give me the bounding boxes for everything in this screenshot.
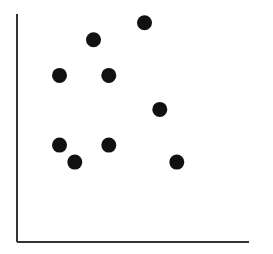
axes (17, 14, 249, 242)
data-point (101, 138, 116, 153)
data-point (86, 32, 101, 47)
data-point (52, 68, 67, 83)
scatter-chart (0, 0, 273, 254)
data-point (152, 102, 167, 117)
data-point (169, 155, 184, 170)
data-point (101, 68, 116, 83)
data-points (52, 15, 184, 169)
data-point (67, 155, 82, 170)
data-point (137, 15, 152, 30)
data-point (52, 138, 67, 153)
